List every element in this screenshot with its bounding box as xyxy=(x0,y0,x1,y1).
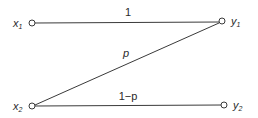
channel-diagram: x1 y1 x2 y2 1 p 1−p xyxy=(0,0,258,118)
edge-x2-y2 xyxy=(35,105,221,106)
label-x2: x2 xyxy=(12,100,23,113)
label-y2: y2 xyxy=(232,99,243,112)
node-y1 xyxy=(219,18,225,24)
edge-label-x1-y1: 1 xyxy=(125,6,131,18)
edge-x1-y1 xyxy=(35,22,219,23)
label-y1: y1 xyxy=(230,15,241,28)
node-x2 xyxy=(29,103,35,109)
edge-label-x2-y1: p xyxy=(122,47,129,59)
label-x1: x1 xyxy=(12,17,23,30)
node-x1 xyxy=(29,20,35,26)
node-y2 xyxy=(221,102,227,108)
edge-label-x2-y2: 1−p xyxy=(119,90,138,102)
